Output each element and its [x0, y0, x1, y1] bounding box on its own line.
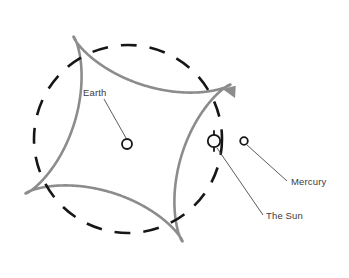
- diagram-canvas: Earth The Sun Mercury: [0, 0, 349, 278]
- orbit-diagram-svg: Earth The Sun Mercury: [0, 0, 349, 278]
- sun-leader-line: [217, 148, 263, 215]
- mercury-body-marker: [240, 137, 248, 145]
- earth-leader-line: [104, 99, 126, 138]
- earth-body-marker: [122, 139, 132, 149]
- leader-lines-group: [104, 99, 287, 215]
- earth-label: Earth: [83, 87, 106, 98]
- sun-label: The Sun: [266, 210, 303, 221]
- mercury-label: Mercury: [291, 176, 326, 187]
- mercury-leader-line: [247, 145, 287, 181]
- sun-body-marker: [208, 135, 220, 147]
